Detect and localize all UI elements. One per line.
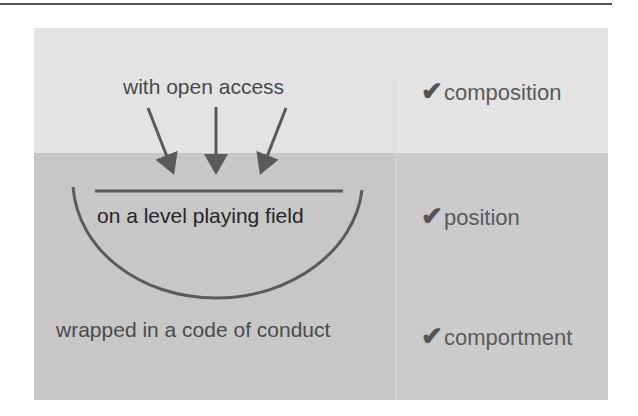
label-open-access: with open access — [123, 75, 284, 99]
check-label: composition — [444, 80, 561, 106]
check-composition: ✔ composition — [421, 76, 561, 107]
arrow-right — [261, 108, 286, 172]
checkmark-icon: ✔ — [421, 321, 443, 352]
check-position: ✔ position — [421, 201, 520, 232]
check-label: comportment — [444, 325, 572, 351]
checkmark-icon: ✔ — [421, 76, 443, 107]
check-comportment: ✔ comportment — [421, 321, 572, 352]
label-level-field: on a level playing field — [97, 204, 304, 228]
checkmark-icon: ✔ — [421, 201, 443, 232]
arrows-and-bowl — [0, 0, 638, 416]
arrow-left — [148, 108, 173, 172]
check-label: position — [444, 205, 520, 231]
label-code-of-conduct: wrapped in a code of conduct — [56, 318, 330, 342]
arrow-icons — [148, 107, 286, 172]
